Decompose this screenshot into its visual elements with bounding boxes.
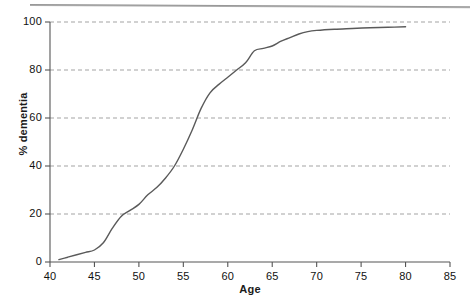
- y-tick-label: 0: [2, 255, 42, 267]
- x-tick-label: 60: [208, 270, 248, 282]
- x-tick-label: 50: [119, 270, 159, 282]
- chart-figure: 020406080100 40455055606570758085 % deme…: [0, 0, 475, 305]
- x-tick-label: 45: [74, 270, 114, 282]
- gridlines-group: [50, 22, 450, 214]
- y-tick-label: 80: [2, 63, 42, 75]
- axes-group: [50, 22, 450, 262]
- y-tick-marks: [45, 22, 50, 262]
- x-tick-label: 65: [252, 270, 292, 282]
- plot-area: 020406080100 40455055606570758085 % deme…: [0, 0, 475, 305]
- y-tick-label: 100: [2, 15, 42, 27]
- x-axis-title: Age: [50, 283, 450, 295]
- x-tick-label: 55: [163, 270, 203, 282]
- y-axis-title: % dementia: [17, 79, 29, 169]
- chart-svg: [0, 0, 475, 305]
- x-tick-label: 80: [386, 270, 426, 282]
- x-tick-label: 40: [30, 270, 70, 282]
- x-tick-label: 70: [297, 270, 337, 282]
- x-tick-label: 75: [341, 270, 381, 282]
- y-tick-label: 20: [2, 207, 42, 219]
- x-tick-label: 85: [430, 270, 470, 282]
- x-tick-marks: [50, 262, 450, 267]
- series-line-dementia: [59, 27, 406, 260]
